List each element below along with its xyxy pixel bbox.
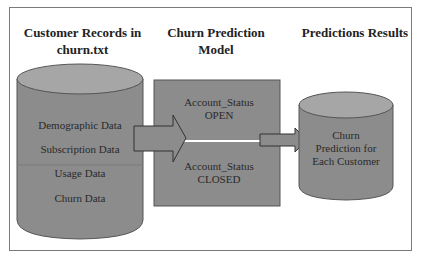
results-line: Churn (299, 129, 393, 142)
status-closed-label: Account_Status CLOSED (158, 160, 280, 186)
data-item-subscription: Subscription Data (17, 143, 143, 156)
heading-line: Customer Records in (10, 24, 155, 41)
data-item-churn: Churn Data (17, 192, 143, 205)
status-field: Account_Status (158, 160, 280, 173)
data-item-demographic: Demographic Data (17, 119, 143, 132)
heading-line: Predictions Results (290, 24, 420, 41)
customer-records-heading: Customer Records in churn.txt (10, 24, 155, 58)
status-field: Account_Status (158, 96, 280, 109)
status-value: OPEN (158, 109, 280, 122)
status-value: CLOSED (158, 173, 280, 186)
data-item-usage: Usage Data (17, 167, 143, 180)
results-label: Churn Prediction for Each Customer (299, 129, 393, 168)
heading-line: churn.txt (10, 41, 155, 58)
churn-model-heading: Churn Prediction Model (150, 24, 282, 58)
heading-line: Model (150, 41, 282, 58)
heading-line: Churn Prediction (150, 24, 282, 41)
prediction-results-heading: Predictions Results (290, 24, 420, 41)
status-open-label: Account_Status OPEN (158, 96, 280, 122)
results-line: Prediction for (299, 142, 393, 155)
results-line: Each Customer (299, 155, 393, 168)
